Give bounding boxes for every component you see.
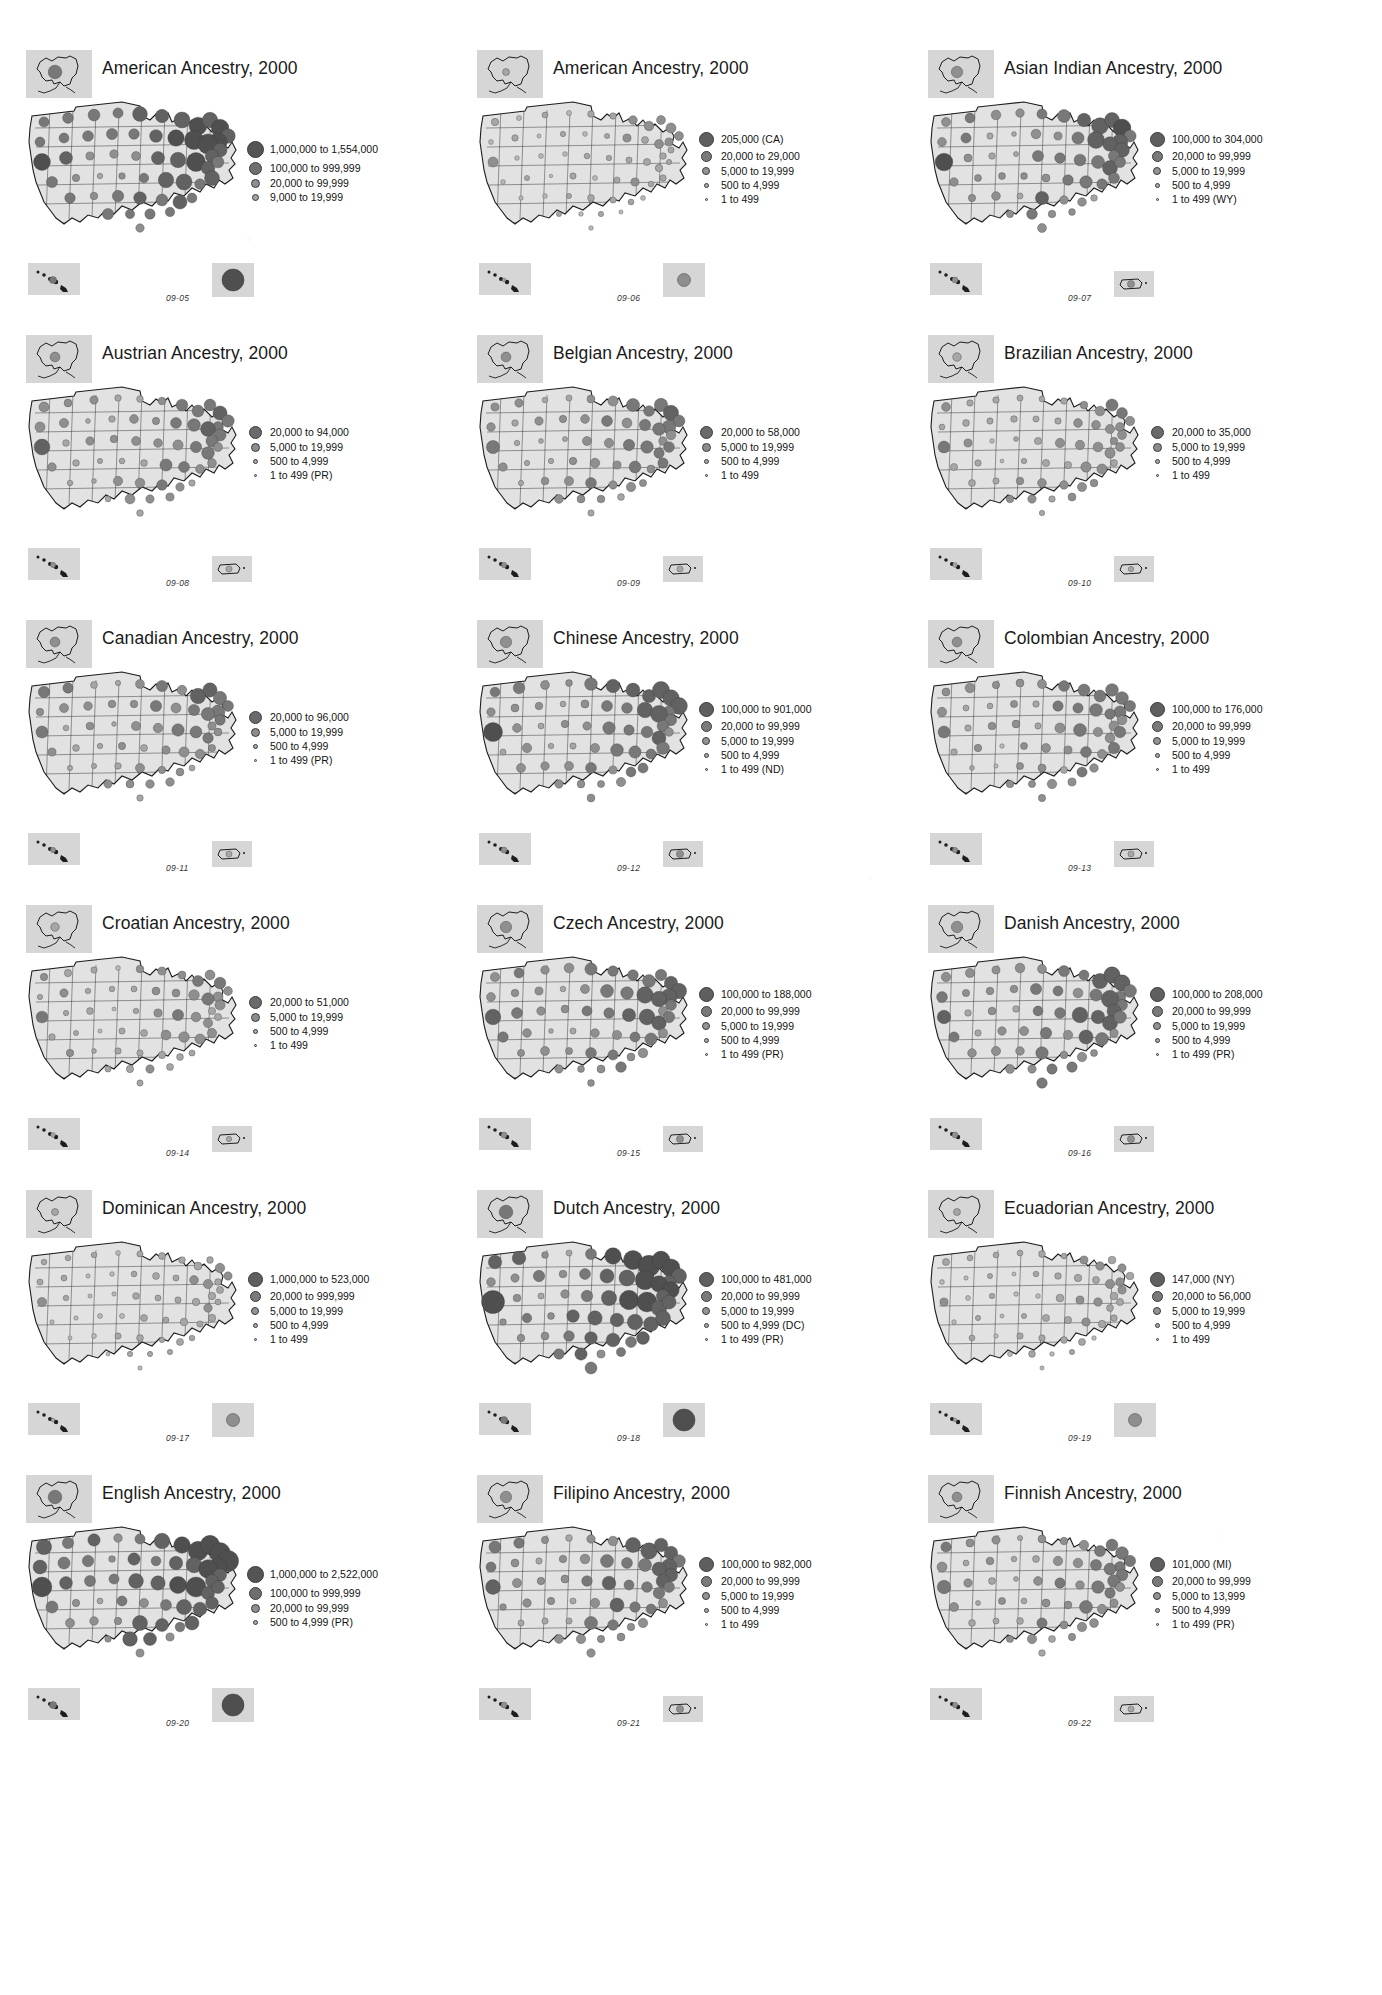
legend-symbol-circle-icon xyxy=(693,1323,719,1328)
legend-label: 500 to 4,999 xyxy=(1170,1605,1230,1616)
hawaii-inset-map xyxy=(479,263,531,295)
us-states-choropleth-map xyxy=(22,1238,252,1413)
legend-symbol-circle-icon xyxy=(242,1338,268,1341)
hawaii-inset-map xyxy=(28,1118,80,1150)
hawaii-inset-map xyxy=(479,833,531,865)
legend-symbol-circle-icon xyxy=(1144,1307,1170,1315)
legend-symbol-circle-icon xyxy=(242,459,268,464)
legend-label: 20,000 to 56,000 xyxy=(1170,1291,1251,1302)
legend-symbol-circle-icon xyxy=(693,198,719,201)
legend-symbol-circle-icon xyxy=(242,1620,268,1625)
legend-entry: 500 to 4,999 (DC) xyxy=(693,1319,908,1332)
legend-symbol-circle-icon xyxy=(693,1623,719,1626)
panel-title: Ecuadorian Ancestry, 2000 xyxy=(1004,1198,1214,1219)
figure-number: 09-18 xyxy=(617,1433,640,1443)
legend-label: 20,000 to 99,999 xyxy=(268,178,349,189)
legend-label: 500 to 4,999 xyxy=(1170,180,1230,191)
legend-dot xyxy=(1153,167,1161,175)
legend-symbol-circle-icon xyxy=(1144,768,1170,771)
panel-title: Dutch Ancestry, 2000 xyxy=(553,1198,720,1219)
legend-label: 5,000 to 19,999 xyxy=(1170,1306,1245,1317)
us-states-choropleth-map xyxy=(473,98,703,273)
legend-dot xyxy=(249,711,262,724)
legend-entry: 20,000 to 99,999 xyxy=(693,1575,908,1589)
us-states-choropleth-map xyxy=(924,98,1154,273)
legend-label: 5,000 to 19,999 xyxy=(1170,442,1245,453)
legend-dot xyxy=(1152,721,1163,732)
legend-dot xyxy=(1150,132,1165,147)
hawaii-inset-map xyxy=(930,1688,982,1720)
us-states-choropleth-map xyxy=(473,383,703,558)
alaska-inset-map xyxy=(26,620,92,668)
legend-dot xyxy=(253,744,258,749)
legend-entry: 100,000 to 208,000 xyxy=(1144,986,1359,1004)
legend-dot xyxy=(251,179,260,188)
hawaii-inset-map xyxy=(479,548,531,580)
legend-label: 1,000,000 to 1,554,000 xyxy=(268,144,378,155)
figure-number: 09-10 xyxy=(1068,578,1091,588)
legend-dot xyxy=(702,1307,710,1315)
legend-dot xyxy=(248,1272,263,1287)
territory-symbol-inset xyxy=(212,1688,254,1722)
legend-dot xyxy=(701,1291,712,1302)
legend-label: 1 to 499 (PR) xyxy=(719,1049,783,1060)
legend-entry: 20,000 to 99,999 xyxy=(1144,1005,1359,1019)
legend-entry: 500 to 4,999 xyxy=(1144,179,1359,192)
figure-number: 09-06 xyxy=(617,293,640,303)
hawaii-inset-map xyxy=(930,833,982,865)
map-legend: 20,000 to 96,0005,000 to 19,999500 to 4,… xyxy=(242,709,457,768)
hawaii-inset-map xyxy=(479,1403,531,1435)
panel-title: Czech Ancestry, 2000 xyxy=(553,913,724,934)
legend-entry: 1 to 499 (PR) xyxy=(242,754,457,767)
legend-symbol-circle-icon xyxy=(693,167,719,175)
legend-entry: 20,000 to 51,000 xyxy=(242,994,457,1010)
map-panel: Brazilian Ancestry, 2000 20,000 to 35,00… xyxy=(916,325,1367,610)
panel-title: American Ancestry, 2000 xyxy=(553,58,749,79)
legend-symbol-circle-icon xyxy=(1144,1608,1170,1613)
legend-entry: 1 to 499 xyxy=(1144,1333,1359,1346)
legend-entry: 1 to 499 xyxy=(693,1618,908,1631)
legend-symbol-circle-icon xyxy=(1144,1272,1170,1287)
legend-symbol-circle-icon xyxy=(242,1604,268,1613)
legend-symbol-circle-icon xyxy=(693,768,719,771)
hawaii-inset-map xyxy=(930,548,982,580)
legend-label: 500 to 4,999 xyxy=(268,456,328,467)
legend-entry: 205,000 (CA) xyxy=(693,131,908,149)
legend-dot xyxy=(253,1323,258,1328)
legend-symbol-circle-icon xyxy=(693,132,719,147)
legend-dot xyxy=(1152,1291,1163,1302)
legend-label: 1,000,000 to 2,522,000 xyxy=(268,1569,378,1580)
panel-title: English Ancestry, 2000 xyxy=(102,1483,281,1504)
legend-label: 1 to 499 xyxy=(1170,1334,1210,1345)
legend-entry: 1 to 499 (PR) xyxy=(693,1333,908,1346)
legend-label: 5,000 to 19,999 xyxy=(1170,166,1245,177)
legend-dot xyxy=(249,426,262,439)
legend-dot xyxy=(253,459,258,464)
legend-symbol-circle-icon xyxy=(1144,1557,1170,1572)
alaska-inset-map xyxy=(26,905,92,953)
legend-entry: 500 to 4,999 xyxy=(693,1604,908,1617)
legend-symbol-circle-icon xyxy=(242,179,268,188)
map-panel: Belgian Ancestry, 2000 20,000 to 58,0005… xyxy=(465,325,916,610)
map-legend: 20,000 to 35,0005,000 to 19,999500 to 4,… xyxy=(1144,424,1359,483)
legend-entry: 500 to 4,999 xyxy=(242,740,457,753)
legend-entry: 20,000 to 99,999 xyxy=(242,177,457,190)
legend-dot xyxy=(1150,1557,1165,1572)
legend-dot xyxy=(1151,426,1164,439)
legend-dot xyxy=(701,1006,712,1017)
legend-dot xyxy=(705,474,708,477)
legend-entry: 20,000 to 999,999 xyxy=(242,1290,457,1304)
legend-symbol-circle-icon xyxy=(1144,426,1170,439)
legend-label: 5,000 to 19,999 xyxy=(268,727,343,738)
legend-symbol-circle-icon xyxy=(693,721,719,732)
map-legend: 100,000 to 208,00020,000 to 99,9995,000 … xyxy=(1144,986,1359,1062)
legend-label: 5,000 to 19,999 xyxy=(719,1306,794,1317)
hawaii-inset-map xyxy=(28,1688,80,1720)
puerto-rico-inset-map xyxy=(663,1696,703,1722)
legend-dot xyxy=(702,167,710,175)
legend-label: 500 to 4,999 xyxy=(1170,1035,1230,1046)
legend-symbol-circle-icon xyxy=(693,443,719,452)
legend-symbol-circle-icon xyxy=(242,1029,268,1034)
panel-title: Colombian Ancestry, 2000 xyxy=(1004,628,1209,649)
legend-dot xyxy=(254,1044,257,1047)
